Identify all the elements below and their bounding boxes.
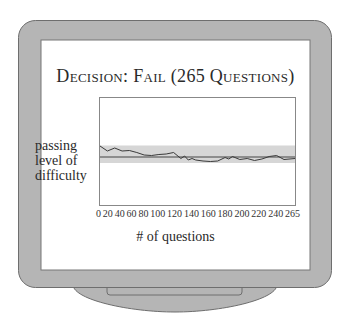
x-tick: 120 xyxy=(167,208,182,219)
x-tick: 60 xyxy=(127,208,137,219)
y-axis-label-line: passing xyxy=(35,138,87,153)
x-tick: 20 xyxy=(103,208,113,219)
chart-title: Decision: Fail (265 Questions) xyxy=(41,66,310,87)
x-tick: 0 xyxy=(96,208,101,219)
x-tick: 240 xyxy=(268,208,283,219)
monitor-stand xyxy=(73,285,277,312)
x-tick: 200 xyxy=(234,208,249,219)
y-axis-label: passing level of difficulty xyxy=(35,138,87,183)
x-tick: 40 xyxy=(115,208,125,219)
y-axis-label-line: level of xyxy=(35,153,87,168)
x-axis-ticks: 0 20 40 60 80 100 120 140 160 180 200 22… xyxy=(96,208,300,219)
x-axis-label: # of questions xyxy=(41,229,310,245)
x-tick: 180 xyxy=(218,208,233,219)
x-tick: 160 xyxy=(201,208,216,219)
y-axis-label-line: difficulty xyxy=(35,168,87,183)
x-tick: 140 xyxy=(184,208,199,219)
x-tick: 80 xyxy=(138,208,148,219)
x-tick: 265 xyxy=(285,208,300,219)
x-tick: 220 xyxy=(251,208,266,219)
x-tick: 100 xyxy=(150,208,165,219)
